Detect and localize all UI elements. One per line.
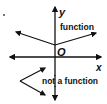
y-axis-label: y <box>58 6 66 18</box>
dot-marker <box>3 14 5 16</box>
x-axis-label: x <box>95 62 102 73</box>
function-graph <box>16 32 96 45</box>
function-label: function <box>60 22 94 32</box>
origin-label: O <box>57 46 66 58</box>
not-a-function-label: not a function <box>42 76 98 86</box>
coordinate-diagram: y x O function not a function <box>0 0 107 104</box>
